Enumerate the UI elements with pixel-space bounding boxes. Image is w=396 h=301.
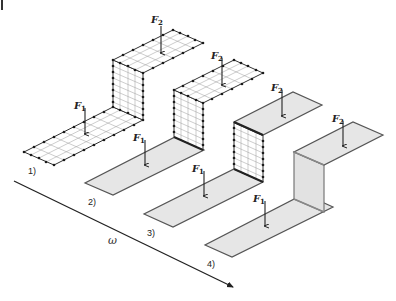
omega-label: ω: [108, 234, 117, 247]
shape-4-f1: F1: [252, 193, 265, 206]
shape-3-f2: F2: [270, 82, 283, 95]
shape-3-f1: F1: [191, 163, 204, 176]
shape-1-f2: F2: [150, 14, 163, 27]
shape-2-f2: F2: [210, 50, 223, 63]
shape-1-f1: F1: [73, 100, 86, 113]
shape-4-label: 4): [207, 259, 215, 269]
shape-2-f1: F1: [132, 132, 145, 145]
shape-4-f2: F2: [331, 113, 344, 126]
shape-3-label: 3): [147, 228, 155, 238]
z-plates-diagram: ω F1 F2 4): [0, 0, 396, 301]
shape-2-label: 2): [88, 197, 96, 207]
edge-mark: [1, 0, 3, 10]
shape-1-label: 1): [28, 166, 36, 176]
